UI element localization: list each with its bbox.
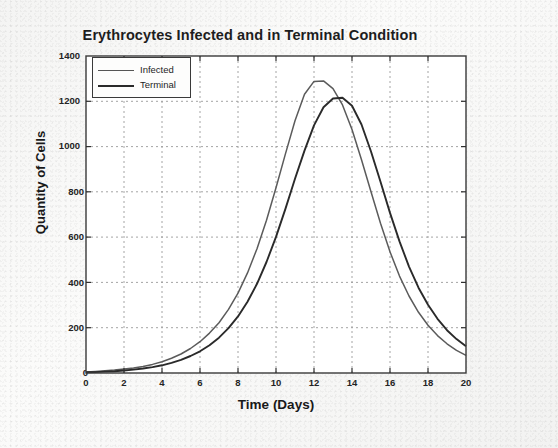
plot-area [86, 56, 466, 373]
legend-label: Terminal [140, 79, 176, 90]
chart-figure: Erythrocytes Infected and in Terminal Co… [0, 0, 558, 448]
legend-label: Infected [140, 64, 174, 75]
chart-legend: Infected Terminal [92, 57, 191, 98]
plot-canvas [0, 0, 558, 448]
legend-swatch-terminal [98, 85, 134, 87]
legend-swatch-infected [98, 70, 134, 71]
